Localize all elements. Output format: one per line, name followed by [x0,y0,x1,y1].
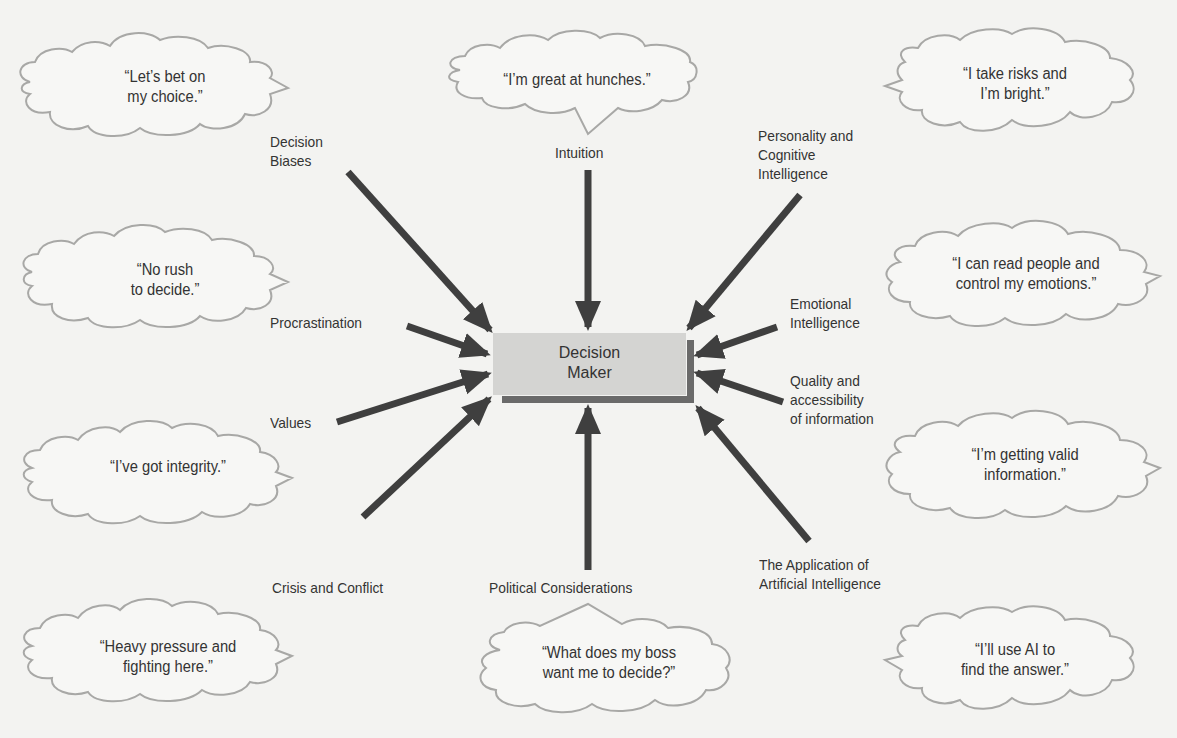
factor-crisis: Crisis and Conflict [272,578,383,597]
thought-line: “No rush [68,260,261,280]
thought-valid-info: “I’m getting valid information.” [915,445,1136,485]
factor-line: of information [790,409,874,428]
factor-intuition: Intuition [555,143,603,162]
factor-line: The Application of [759,555,881,574]
factor-line: Values [270,413,311,432]
thought-line: “I can read people and [906,254,1145,274]
factor-personality: Personality and Cognitive Intelligence [758,126,853,183]
factor-ai: The Application of Artificial Intelligen… [759,555,881,593]
arrow-procrastination [407,326,487,354]
factor-quality: Quality and accessibility of information [790,371,874,428]
center-line-1: Decision [493,343,686,363]
arrow-crisis [363,399,489,517]
thought-line: fighting here.” [59,657,276,677]
thought-line: information.” [915,465,1136,485]
factor-line: Crisis and Conflict [272,578,383,597]
factor-emotional: Emotional Intelligence [790,294,860,332]
factor-line: accessibility [790,390,874,409]
factor-decision-biases: Decision Biases [270,132,323,170]
thought-bet: “Let’s bet on my choice.” [68,67,261,107]
factor-political: Political Considerations [489,578,632,597]
thought-no-rush: “No rush to decide.” [68,260,261,300]
factor-line: Quality and [790,371,874,390]
thought-line: “I’m getting valid [915,445,1136,465]
arrow-personality [689,195,800,328]
thought-use-ai: “I’ll use AI to find the answer.” [914,640,1116,680]
arrow-quality [697,373,783,402]
factor-procrastination: Procrastination [270,313,362,332]
thought-line: “I’ll use AI to [914,640,1116,660]
thought-line: “I take risks and [914,64,1116,84]
factor-line: Decision [270,132,323,151]
factor-line: Intelligence [758,164,853,183]
decision-maker-label: Decision Maker [493,343,686,383]
thought-line: want me to decide?” [505,663,713,683]
thought-line: find the answer.” [914,660,1116,680]
factor-line: Intuition [555,143,603,162]
thought-line: control my emotions.” [906,274,1145,294]
factor-line: Intelligence [790,313,860,332]
box-shadow-right [687,340,694,403]
thought-line: I’m bright.” [914,84,1116,104]
factor-line: Political Considerations [489,578,632,597]
thought-line: “What does my boss [505,643,713,663]
center-line-2: Maker [493,363,686,383]
factor-values: Values [270,413,311,432]
thought-line: “I’ve got integrity.” [59,457,276,477]
factor-line: Personality and [758,126,853,145]
factor-line: Procrastination [270,313,362,332]
thought-line: “I’m great at hunches.” [471,70,683,90]
thought-risks: “I take risks and I’m bright.” [914,64,1116,104]
arrow-values [337,374,488,422]
thought-line: “Heavy pressure and [59,637,276,657]
factor-line: Emotional [790,294,860,313]
thought-read-people: “I can read people and control my emotio… [906,254,1145,294]
box-shadow-bottom [502,396,694,403]
factor-line: Cognitive [758,145,853,164]
arrow-decision-biases [348,172,490,330]
thought-pressure: “Heavy pressure and fighting here.” [59,637,276,677]
thought-line: “Let’s bet on [68,67,261,87]
arrow-emotional [697,327,777,355]
factor-line: Artificial Intelligence [759,574,881,593]
thought-line: my choice.” [68,87,261,107]
thought-line: to decide.” [68,280,261,300]
thought-integrity: “I’ve got integrity.” [59,457,276,477]
thought-boss: “What does my boss want me to decide?” [505,643,713,683]
factor-line: Biases [270,151,323,170]
thought-hunches: “I’m great at hunches.” [471,70,683,90]
